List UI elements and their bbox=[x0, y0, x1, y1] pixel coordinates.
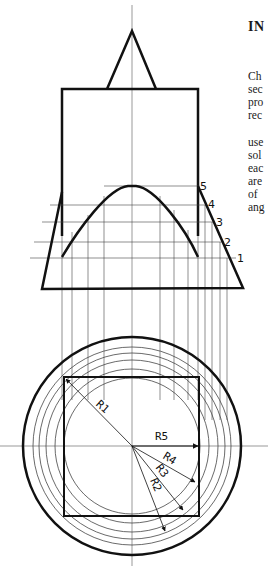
radius-label-r1: R1 bbox=[93, 397, 112, 416]
section-label-1: 1 bbox=[237, 252, 244, 265]
radius-label-r5: R5 bbox=[155, 430, 168, 443]
plan-view: R1 R5 R4 R3 R2 bbox=[0, 300, 268, 566]
paragraph-2: use sol eac are of ang bbox=[248, 136, 265, 214]
paragraph-2-line: sol bbox=[248, 149, 265, 162]
section-heading: IN bbox=[248, 19, 265, 35]
paragraph-1: Ch sec pro rec bbox=[248, 70, 263, 122]
paragraph-1-line: rec bbox=[248, 109, 263, 122]
cylinder-outline bbox=[62, 89, 198, 236]
paragraph-2-line: use bbox=[248, 136, 265, 149]
projection-lines bbox=[62, 196, 227, 420]
paragraph-2-line: eac bbox=[248, 162, 265, 175]
technical-drawing: 5 4 3 2 1 R1 R5 R4 R3 R2 bbox=[0, 0, 276, 566]
paragraph-1-line: Ch bbox=[248, 70, 263, 83]
elevation-view: 5 4 3 2 1 bbox=[30, 5, 244, 420]
section-curve bbox=[62, 186, 198, 257]
paragraph-2-line: of bbox=[248, 188, 265, 201]
cone-tip bbox=[107, 31, 156, 89]
radius-line-r1 bbox=[66, 379, 132, 446]
paragraph-2-line: ang bbox=[248, 201, 265, 214]
paragraph-1-line: sec bbox=[248, 83, 263, 96]
section-label-2: 2 bbox=[224, 236, 231, 249]
section-label-4: 4 bbox=[208, 198, 215, 211]
paragraph-2-line: are bbox=[248, 175, 265, 188]
paragraph-1-line: pro bbox=[248, 96, 263, 109]
section-label-5: 5 bbox=[200, 180, 207, 193]
section-label-3: 3 bbox=[216, 216, 223, 229]
